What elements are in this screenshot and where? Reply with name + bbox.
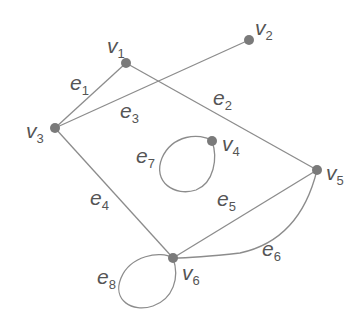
label-e5: e5 [217,187,236,214]
edge-e1 [55,63,126,128]
vertex-v4 [207,136,217,146]
edge-e5 [173,170,317,258]
label-v6: v6 [182,261,200,288]
label-e7: e7 [136,144,155,171]
label-e6: e6 [262,237,281,264]
vertex-v5 [312,165,322,175]
vertex-v6 [168,253,178,263]
label-e3: e3 [120,99,139,126]
label-e4: e4 [90,186,109,213]
label-e2: e2 [213,86,232,113]
label-v1: v1 [107,34,125,61]
vertex-v2 [244,35,254,45]
graph-diagram: v1 v2 v3 v4 v5 v6 e1 e2 e3 e4 e5 e6 e7 e… [0,0,363,320]
label-e8: e8 [97,265,116,292]
label-v3: v3 [26,119,44,146]
edge-e8-loop [119,255,176,308]
vertex-v3 [50,123,60,133]
label-e1: e1 [70,71,89,98]
label-v4: v4 [222,132,240,159]
edge-e4 [55,128,173,258]
label-v2: v2 [255,16,273,43]
label-v5: v5 [326,161,344,188]
vertex-labels: v1 v2 v3 v4 v5 v6 [26,16,344,288]
edge-e7-loop [160,136,215,191]
